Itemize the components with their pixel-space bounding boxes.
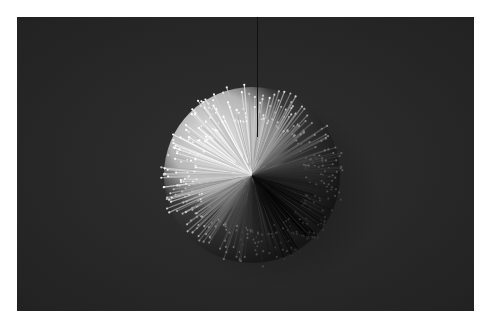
spike-tip bbox=[295, 231, 297, 233]
spike-tip bbox=[326, 190, 328, 192]
spike-tip bbox=[295, 95, 297, 97]
spike-tip bbox=[266, 122, 268, 124]
spike-tip bbox=[260, 118, 262, 120]
spike-tip bbox=[172, 139, 174, 141]
spike-tip bbox=[290, 107, 292, 109]
spike-tip bbox=[196, 216, 198, 218]
spike-tip bbox=[259, 102, 261, 104]
spike-tip bbox=[207, 103, 209, 105]
spike-tip bbox=[320, 140, 322, 142]
spike-tip bbox=[241, 91, 243, 93]
spike-tip bbox=[200, 215, 202, 217]
spike-tip bbox=[181, 212, 183, 214]
spike-tip bbox=[214, 129, 216, 131]
spike-tip bbox=[236, 256, 238, 258]
spike-tip bbox=[254, 242, 256, 244]
spike-tip bbox=[209, 117, 211, 119]
spike-tip bbox=[176, 150, 178, 152]
spike-tip bbox=[167, 154, 169, 156]
spike-tip bbox=[280, 106, 282, 108]
spike-tip bbox=[277, 121, 279, 123]
spike-tip bbox=[321, 128, 323, 130]
spike-tip bbox=[246, 237, 248, 239]
spike-tip bbox=[322, 229, 324, 231]
spike-tip bbox=[283, 258, 285, 260]
spike-tip bbox=[249, 229, 251, 231]
spike-tip bbox=[300, 133, 302, 135]
spike-tip bbox=[170, 201, 172, 203]
spike-tip bbox=[225, 229, 227, 231]
spike-tip bbox=[306, 114, 308, 116]
spike-tip bbox=[313, 232, 315, 234]
spike-tip bbox=[180, 179, 182, 181]
spike-tip bbox=[194, 158, 196, 160]
spike-tip bbox=[185, 183, 187, 185]
spike-tip bbox=[201, 193, 203, 195]
spike-tip bbox=[334, 195, 336, 197]
spike bbox=[165, 174, 232, 175]
spike-tip bbox=[328, 183, 330, 185]
spike-tip bbox=[191, 113, 193, 115]
spike-tip bbox=[226, 86, 228, 88]
vertical-line bbox=[257, 17, 258, 137]
photograph bbox=[17, 17, 474, 311]
spike-tip bbox=[263, 117, 265, 119]
spike-tip bbox=[308, 141, 310, 143]
spike-tip bbox=[269, 97, 271, 99]
spike-tip bbox=[334, 146, 336, 148]
spike-tip bbox=[208, 241, 210, 243]
spike-tip bbox=[283, 91, 285, 93]
spike bbox=[189, 175, 237, 176]
spike-tip bbox=[204, 98, 206, 100]
spike-tip bbox=[283, 130, 285, 132]
spike-tip bbox=[191, 209, 193, 211]
spike-tip bbox=[180, 181, 182, 183]
spike-tip bbox=[205, 136, 207, 138]
spike-tip bbox=[293, 125, 295, 127]
spike-tip bbox=[308, 231, 310, 233]
spike-tip bbox=[288, 218, 290, 220]
spike-tip bbox=[248, 93, 250, 95]
spike-tip bbox=[195, 166, 197, 168]
spike-tip bbox=[254, 106, 256, 108]
spike-tip bbox=[331, 180, 333, 182]
spike-tip bbox=[242, 121, 244, 123]
spike-tip bbox=[191, 231, 193, 233]
spike-tip bbox=[278, 99, 280, 101]
spike-tip bbox=[273, 94, 275, 96]
spike-tip bbox=[225, 251, 227, 253]
spike-tip bbox=[213, 93, 215, 95]
spike-tip bbox=[204, 140, 206, 142]
spike-tip bbox=[187, 171, 189, 173]
spike-tip bbox=[246, 229, 248, 231]
spike-tip bbox=[198, 127, 200, 129]
spike-tip bbox=[203, 150, 205, 152]
spike-tip bbox=[339, 155, 341, 157]
spike-tip bbox=[256, 253, 258, 255]
spike-tip bbox=[323, 223, 325, 225]
spike-tip bbox=[332, 152, 334, 154]
spike-tip bbox=[289, 92, 291, 94]
spike-tip bbox=[185, 124, 187, 126]
spike-tip bbox=[321, 180, 323, 182]
spike-tip bbox=[173, 188, 175, 190]
spike-tip bbox=[174, 158, 176, 160]
spike-tip bbox=[317, 236, 319, 238]
spike-tip bbox=[209, 237, 211, 239]
spike-tip bbox=[180, 161, 182, 163]
spike-tip bbox=[305, 176, 307, 178]
spike-tip bbox=[236, 225, 238, 227]
spike-tip bbox=[305, 194, 307, 196]
spike-tip bbox=[335, 159, 337, 161]
spike-tip bbox=[301, 105, 303, 107]
spike-tip bbox=[185, 129, 187, 131]
spike-tip bbox=[219, 248, 221, 250]
spike-tip bbox=[318, 197, 320, 199]
spike-tip bbox=[236, 109, 238, 111]
spike-tip bbox=[282, 249, 284, 251]
spike-tip bbox=[197, 235, 199, 237]
spike-tip bbox=[191, 207, 193, 209]
spike-tip bbox=[176, 210, 178, 212]
spike-tip bbox=[325, 159, 327, 161]
spike-tip bbox=[262, 114, 264, 116]
